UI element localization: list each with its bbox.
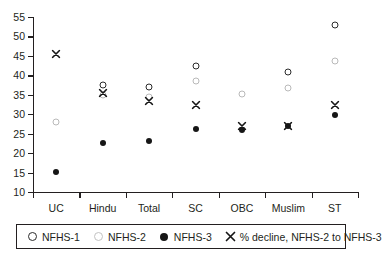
y-tick bbox=[28, 75, 33, 76]
y-tick bbox=[28, 56, 33, 57]
data-point bbox=[53, 169, 59, 175]
x-axis-label-st: ST bbox=[328, 203, 341, 214]
data-point bbox=[285, 69, 292, 76]
legend-label: NFHS-3 bbox=[174, 231, 212, 243]
legend-item: % decline, NFHS-2 to NFHS-3 bbox=[225, 231, 382, 243]
data-point bbox=[191, 100, 200, 109]
x-tick bbox=[265, 192, 266, 198]
x-tick bbox=[33, 192, 34, 198]
x-axis-line bbox=[33, 192, 358, 193]
data-point bbox=[53, 119, 60, 126]
y-tick bbox=[28, 17, 33, 18]
legend-item: NFHS-2 bbox=[93, 231, 146, 243]
y-tick-label: 35 bbox=[5, 90, 25, 101]
y-tick bbox=[28, 173, 33, 174]
y-tick-label: 45 bbox=[5, 51, 25, 62]
filled-circle-icon bbox=[159, 231, 170, 242]
y-tick-label: 20 bbox=[5, 148, 25, 159]
y-tick-label: 25 bbox=[5, 129, 25, 140]
legend-label: % decline, NFHS-2 to NFHS-3 bbox=[240, 231, 382, 243]
y-axis-line bbox=[33, 17, 34, 192]
data-point bbox=[146, 84, 153, 91]
legend-label: NFHS-2 bbox=[108, 231, 146, 243]
x-axis-label-obc: OBC bbox=[231, 203, 254, 214]
plot-area: 10152025303540455055 UCHinduTotalSCOBCMu… bbox=[33, 17, 358, 192]
data-point bbox=[237, 122, 246, 131]
chart-legend: NFHS-1NFHS-2NFHS-3% decline, NFHS-2 to N… bbox=[16, 224, 346, 249]
y-tick bbox=[28, 36, 33, 37]
x-axis-label-sc: SC bbox=[188, 203, 203, 214]
data-point bbox=[192, 62, 199, 69]
x-tick bbox=[358, 192, 359, 198]
y-tick bbox=[28, 134, 33, 135]
data-point bbox=[100, 140, 106, 146]
x-tick bbox=[312, 192, 313, 198]
legend-item: NFHS-1 bbox=[27, 231, 80, 243]
open-circle-dark-icon bbox=[27, 231, 38, 242]
x-tick bbox=[126, 192, 127, 198]
data-point bbox=[192, 78, 199, 85]
x-cross-icon bbox=[225, 231, 236, 242]
data-point bbox=[52, 49, 61, 58]
data-point bbox=[284, 121, 293, 130]
x-tick bbox=[79, 192, 80, 198]
data-point bbox=[98, 88, 107, 97]
data-point bbox=[145, 97, 154, 106]
x-axis-label-total: Total bbox=[138, 203, 160, 214]
y-tick bbox=[28, 153, 33, 154]
data-point bbox=[332, 112, 338, 118]
y-tick-label: 30 bbox=[5, 109, 25, 120]
y-tick-label: 50 bbox=[5, 31, 25, 42]
data-point bbox=[193, 126, 199, 132]
legend-label: NFHS-1 bbox=[42, 231, 80, 243]
y-tick-label: 10 bbox=[5, 187, 25, 198]
y-tick-label: 55 bbox=[5, 12, 25, 23]
y-tick-label: 15 bbox=[5, 168, 25, 179]
x-axis-label-uc: UC bbox=[49, 203, 64, 214]
y-tick-label: 40 bbox=[5, 70, 25, 81]
x-axis-label-muslim: Muslim bbox=[272, 203, 305, 214]
x-tick bbox=[219, 192, 220, 198]
data-point bbox=[330, 100, 339, 109]
data-point bbox=[238, 91, 245, 98]
y-tick bbox=[28, 114, 33, 115]
data-point bbox=[146, 138, 152, 144]
x-tick bbox=[172, 192, 173, 198]
x-axis-label-hindu: Hindu bbox=[89, 203, 116, 214]
y-tick bbox=[28, 95, 33, 96]
data-point bbox=[331, 21, 338, 28]
open-circle-light-icon bbox=[93, 231, 104, 242]
data-point bbox=[331, 57, 338, 64]
data-point bbox=[285, 84, 292, 91]
legend-item: NFHS-3 bbox=[159, 231, 212, 243]
